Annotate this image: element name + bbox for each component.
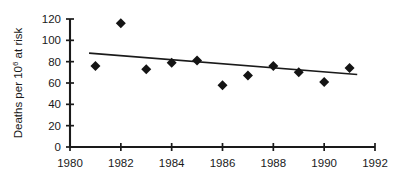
chart-figure: 020406080100120 198019821984198619881990… xyxy=(0,0,406,188)
x-tick-label: 1992 xyxy=(362,157,388,169)
y-tick-label: 80 xyxy=(48,56,61,68)
x-tick-label: 1990 xyxy=(311,157,337,169)
y-tick-label: 60 xyxy=(48,77,61,89)
trend-line xyxy=(89,53,357,74)
y-tick-label: 120 xyxy=(42,13,61,25)
y-tick-label: 100 xyxy=(42,34,61,46)
y-tick-label: 20 xyxy=(48,120,61,132)
x-tick-label: 1986 xyxy=(210,157,236,169)
data-point-markers xyxy=(90,18,354,90)
y-axis-label: Deaths per 106 at risk xyxy=(11,27,25,138)
y-tick-label: 40 xyxy=(48,98,61,110)
y-axis-label-prefix: Deaths per 10 xyxy=(12,66,24,138)
y-tick-label: 0 xyxy=(55,141,61,153)
data-point-marker xyxy=(116,18,126,28)
data-point-marker xyxy=(319,77,329,87)
data-point-marker xyxy=(243,71,253,81)
data-point-marker xyxy=(90,61,100,71)
x-tick-label: 1980 xyxy=(57,157,83,169)
x-tick-label: 1984 xyxy=(159,157,185,169)
data-point-marker xyxy=(218,80,228,90)
y-axis-label-suffix: at risk xyxy=(12,27,24,61)
data-point-marker xyxy=(268,61,278,71)
data-point-marker xyxy=(345,63,355,73)
x-tick-label: 1988 xyxy=(261,157,287,169)
x-tick-label: 1982 xyxy=(108,157,134,169)
data-point-marker xyxy=(141,64,151,74)
data-point-marker xyxy=(192,56,202,66)
scatter-plot: 020406080100120 198019821984198619881990… xyxy=(0,0,406,188)
